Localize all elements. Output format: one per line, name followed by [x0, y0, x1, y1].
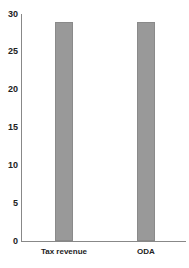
x-label-oda: ODA	[111, 247, 181, 256]
y-tick-0: 0	[2, 236, 18, 246]
bar-chart: 0 5 10 15 20 25 30 Tax revenue ODA	[0, 0, 189, 268]
y-tick-10: 10	[2, 160, 18, 170]
y-axis	[21, 14, 22, 241]
y-tick-25: 25	[2, 46, 18, 56]
x-label-tax-revenue: Tax revenue	[29, 247, 99, 256]
y-tick-30: 30	[2, 9, 18, 19]
bar-tax-revenue	[55, 22, 73, 241]
y-tick-15: 15	[2, 122, 18, 132]
x-axis	[21, 241, 186, 242]
y-tick-20: 20	[2, 84, 18, 94]
y-tick-5: 5	[2, 198, 18, 208]
bar-oda	[137, 22, 155, 241]
